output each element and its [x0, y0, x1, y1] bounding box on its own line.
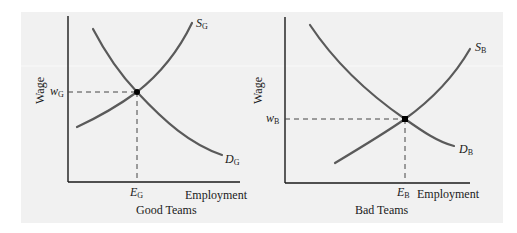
equilibrium-point-good [134, 89, 140, 95]
y-axis-label-good: Wage [33, 77, 47, 104]
demand-curve-good [93, 29, 222, 155]
x-axis-label-good: Employment [185, 188, 248, 202]
supply-curve-good [77, 23, 192, 127]
labor-market-diagram: Wage wG EG Employment Good Teams SG DG [0, 0, 517, 233]
panel-title-good: Good Teams [136, 203, 197, 217]
y-axis-label-bad: Wage [251, 77, 265, 104]
panel-bad-teams: Wage wB EB Employment Bad Teams SB DB [251, 17, 486, 217]
wage-label-good: wG [50, 84, 64, 99]
panel-title-bad: Bad Teams [355, 203, 409, 217]
panel-good-teams: Wage wG EG Employment Good Teams SG DG [33, 16, 248, 217]
supply-label-good: SG [196, 16, 208, 31]
supply-label-bad: SB [475, 40, 486, 55]
demand-label-bad: DB [458, 142, 473, 157]
employment-eq-label-bad: EB [396, 185, 410, 200]
demand-curve-bad [310, 25, 454, 146]
employment-eq-label-good: EG [129, 185, 143, 200]
wage-label-bad: wB [266, 111, 279, 126]
demand-label-good: DG [224, 152, 240, 167]
x-axis-label-bad: Employment [417, 187, 480, 201]
equilibrium-point-bad [402, 116, 408, 122]
